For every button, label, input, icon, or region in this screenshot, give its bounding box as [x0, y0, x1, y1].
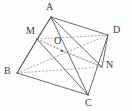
edge-a-c: [51, 17, 88, 95]
edge-b-c: [17, 73, 88, 95]
vertex-label-b: B: [4, 66, 11, 76]
point-markers-group: [61, 50, 63, 52]
vertex-label-c: C: [85, 98, 92, 108]
geometry-figure: AMBCDNO: [0, 0, 132, 111]
edge-m-c: [37, 39, 88, 95]
edge-m-b: [17, 39, 37, 73]
geometry-canvas: [0, 0, 132, 111]
edge-d-c: [88, 35, 108, 95]
vertex-label-a: A: [46, 2, 53, 12]
vertex-label-d: D: [113, 25, 120, 35]
vertex-label-m: M: [26, 26, 35, 36]
vertex-label-n: N: [106, 60, 113, 70]
vertex-label-o: O: [54, 36, 61, 46]
edge-b-n-hidden: [17, 67, 102, 73]
point-marker-o: [61, 50, 63, 52]
